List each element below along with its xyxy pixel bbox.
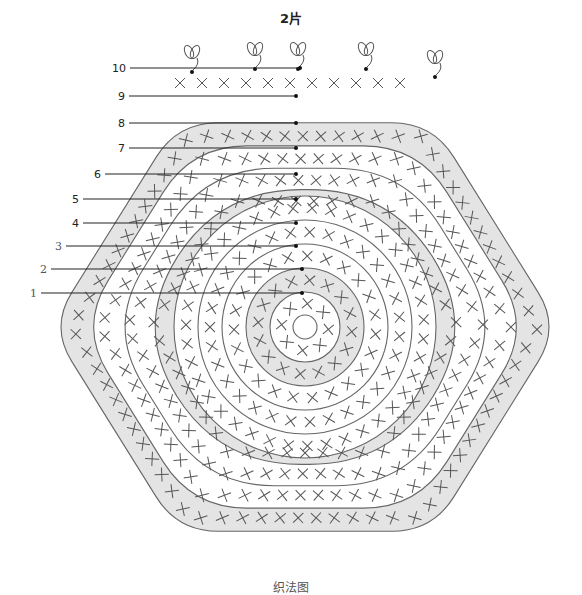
picot-loop-icon bbox=[356, 41, 375, 71]
single-crochet-icon bbox=[395, 78, 405, 88]
picot-loop-icon bbox=[182, 44, 201, 74]
single-crochet-icon bbox=[175, 78, 185, 88]
single-crochet-icon bbox=[285, 78, 295, 88]
slip-stitch-icon bbox=[294, 221, 298, 225]
row-label-1: 1 bbox=[30, 287, 37, 300]
picot-loop-icon bbox=[245, 41, 264, 71]
row-label-4: 4 bbox=[72, 217, 79, 230]
slip-stitch-icon bbox=[300, 267, 304, 271]
slip-stitch-icon bbox=[294, 172, 298, 176]
row-label-8: 8 bbox=[118, 117, 125, 130]
single-crochet-icon bbox=[241, 78, 251, 88]
row-label-10: 10 bbox=[112, 62, 126, 75]
single-crochet-icon bbox=[263, 78, 273, 88]
row-label-6: 6 bbox=[94, 168, 101, 181]
single-crochet-icon bbox=[329, 78, 339, 88]
slip-stitch-icon bbox=[294, 146, 298, 150]
row-label-7: 7 bbox=[118, 142, 125, 155]
slip-stitch-icon bbox=[294, 94, 298, 98]
single-crochet-icon bbox=[219, 78, 229, 88]
single-crochet-icon bbox=[351, 78, 361, 88]
single-crochet-icon bbox=[307, 78, 317, 88]
single-crochet-icon bbox=[197, 78, 207, 88]
center-ring bbox=[293, 315, 317, 339]
diagram-caption: 织法图 bbox=[0, 578, 582, 595]
slip-stitch-icon bbox=[300, 291, 304, 295]
row-label-2: 2 bbox=[40, 263, 47, 276]
picot-loop-icon bbox=[288, 41, 307, 71]
single-crochet-icon bbox=[373, 78, 383, 88]
picot-loop-icon bbox=[425, 49, 444, 79]
row-label-5: 5 bbox=[72, 193, 79, 206]
picot-edging bbox=[182, 41, 444, 79]
row-label-9: 9 bbox=[118, 90, 125, 103]
row-label-3: 3 bbox=[55, 240, 62, 253]
slip-stitch-icon bbox=[294, 197, 298, 201]
slip-stitch-icon bbox=[298, 66, 302, 70]
slip-stitch-icon bbox=[294, 244, 298, 248]
ring-bands bbox=[61, 123, 549, 532]
slip-stitch-icon bbox=[294, 121, 298, 125]
